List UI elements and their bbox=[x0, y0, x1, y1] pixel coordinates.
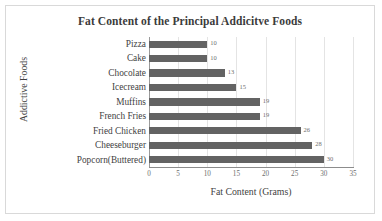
x-axis-tick-label: 30 bbox=[320, 170, 327, 178]
bar bbox=[149, 142, 312, 149]
bar-row: 13 bbox=[149, 66, 353, 80]
bar bbox=[149, 98, 260, 105]
bar bbox=[149, 41, 207, 48]
bar bbox=[149, 55, 207, 62]
y-axis-tick-label: Popcorn(Buttered) bbox=[16, 153, 146, 167]
bar-row: 30 bbox=[149, 153, 353, 167]
y-axis-tick-label: Pizza bbox=[16, 37, 146, 51]
bar-value-label: 28 bbox=[315, 139, 322, 149]
bar-row: 19 bbox=[149, 109, 353, 123]
x-axis-tick-label: 25 bbox=[291, 170, 298, 178]
plot-inner: 101013151919262830 bbox=[149, 37, 353, 167]
x-axis-tick-label: 20 bbox=[262, 170, 269, 178]
bar-row: 15 bbox=[149, 80, 353, 94]
bar-row: 28 bbox=[149, 138, 353, 152]
x-axis-title: Fat Content (Grams) bbox=[149, 186, 353, 197]
bar-row: 26 bbox=[149, 124, 353, 138]
y-axis-tick-label: Cheeseburger bbox=[16, 138, 146, 152]
y-axis-tick-label: Fried Chicken bbox=[16, 124, 146, 138]
bar-row: 10 bbox=[149, 51, 353, 65]
bar-row: 10 bbox=[149, 37, 353, 51]
bar bbox=[149, 127, 301, 134]
bar-row: 19 bbox=[149, 95, 353, 109]
x-axis-tick-label: 5 bbox=[176, 170, 180, 178]
bar-value-label: 26 bbox=[304, 125, 311, 135]
gridline-35 bbox=[353, 37, 354, 167]
x-axis-tick-labels: 05101520253035 bbox=[149, 170, 353, 184]
y-axis-tick-label: Chocolate bbox=[16, 66, 146, 80]
x-axis-line bbox=[149, 167, 354, 168]
bar bbox=[149, 69, 225, 76]
y-axis-tick-label: French Fries bbox=[16, 109, 146, 123]
y-axis-tick-labels: PizzaCakeChocolateIcecreamMuffinsFrench … bbox=[14, 37, 146, 167]
bar bbox=[149, 156, 324, 163]
chart-title: Fat Content of the Principal Addicitve F… bbox=[6, 15, 374, 27]
bar-value-label: 13 bbox=[228, 67, 235, 77]
bar-value-label: 10 bbox=[210, 53, 217, 63]
bar bbox=[149, 113, 260, 120]
x-axis-tick-label: 15 bbox=[233, 170, 240, 178]
bar bbox=[149, 84, 236, 91]
bar-value-label: 15 bbox=[239, 82, 246, 92]
x-axis-tick-label: 35 bbox=[349, 170, 356, 178]
y-axis-tick-label: Icecream bbox=[16, 80, 146, 94]
bar-value-label: 10 bbox=[210, 38, 217, 48]
x-axis-tick-label: 0 bbox=[147, 170, 151, 178]
y-axis-tick-label: Cake bbox=[16, 51, 146, 65]
bar-value-label: 30 bbox=[327, 154, 334, 164]
x-axis-tick-label: 10 bbox=[204, 170, 211, 178]
y-axis-tick-label: Muffins bbox=[16, 95, 146, 109]
chart-container: Fat Content of the Principal Addicitve F… bbox=[5, 5, 375, 214]
plot-area: 101013151919262830 bbox=[149, 37, 353, 167]
bar-value-label: 19 bbox=[263, 110, 270, 120]
bar-value-label: 19 bbox=[263, 96, 270, 106]
